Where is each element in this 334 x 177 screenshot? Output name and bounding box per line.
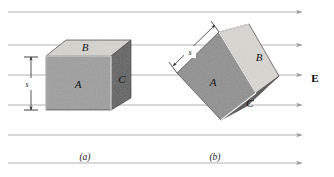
cube-a-group: A B C [46,40,131,110]
figure-container: A B C s A B C [0,0,334,177]
cube-a-dimension-label: s [25,80,28,89]
field-symbol-label: E [311,72,318,84]
panel-caption-b: (b) [209,152,220,163]
cube-b-dimension-label: s [188,48,191,57]
cube-a-label-c: C [118,73,126,85]
physics-figure: A B C s A B C [0,0,334,177]
cube-b-label-a: A [209,76,217,88]
cube-b-label-c: C [246,97,254,109]
panel-caption-a: (a) [79,152,90,163]
cube-b-label-b: B [256,51,263,63]
cube-a-label-a: A [74,78,82,90]
cube-a-label-b: B [82,41,89,53]
